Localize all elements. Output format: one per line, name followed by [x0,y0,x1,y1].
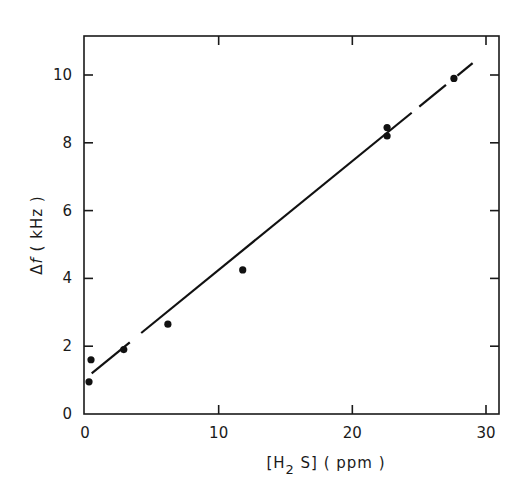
data-point [239,266,246,273]
chart: 01020300246810 [H2 S] ( ppm ) Δf ( kHz ) [0,0,528,491]
y-tick-label: 8 [62,134,72,152]
data-point [120,346,127,353]
fit-line-segment [457,63,472,75]
x-tick-label: 10 [209,424,228,442]
data-point [383,132,390,139]
y-tick-label: 2 [62,337,72,355]
data-point [450,75,457,82]
x-axis-label: [H2 S] ( ppm ) [266,454,385,477]
data-point [164,321,171,328]
fit-line [92,63,473,373]
fit-line-segment [141,113,411,333]
data-point [85,378,92,385]
data-point [87,356,94,363]
tick-labels: 01020300246810 [53,66,496,442]
y-axis-label: Δf ( kHz ) [28,195,46,274]
y-tick-label: 10 [53,66,72,84]
x-tick-label: 30 [476,424,495,442]
data-point [383,124,390,131]
y-tick-label: 4 [62,269,72,287]
x-tick-label: 20 [343,424,362,442]
fit-line-segment [419,85,446,107]
y-tick-label: 6 [62,202,72,220]
y-tick-label: 0 [62,405,72,423]
x-tick-label: 0 [80,424,90,442]
